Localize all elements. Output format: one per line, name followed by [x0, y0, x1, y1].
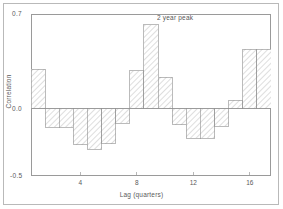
x-tick-label: 12: [190, 179, 197, 186]
bar: [102, 109, 116, 144]
bar: [45, 109, 59, 128]
bar: [144, 25, 158, 109]
y-axis-title: Correlation: [5, 62, 12, 122]
bar: [116, 109, 130, 124]
bar: [215, 109, 229, 127]
bar: [130, 71, 144, 109]
bar: [186, 109, 200, 139]
bar: [257, 49, 271, 108]
x-axis-title: Lag (quarters): [0, 191, 283, 198]
bar: [73, 109, 87, 145]
bar: [158, 77, 172, 108]
bar: [87, 109, 101, 150]
correlogram-plot: [31, 14, 271, 176]
x-tick-label: 4: [79, 179, 83, 186]
x-tick-label: 16: [246, 179, 253, 186]
x-axis-ticks: [80, 172, 249, 176]
bar: [243, 49, 257, 108]
peak-annotation: 2 year peak: [157, 14, 193, 21]
bar: [200, 109, 214, 139]
y-tick-label-bottom: -0.5: [10, 172, 22, 179]
y-tick-label-top: 0.7: [12, 10, 22, 17]
bar: [229, 100, 243, 108]
bar: [59, 109, 73, 128]
bar: [172, 109, 186, 125]
bars-group: [31, 25, 271, 149]
bar: [31, 69, 45, 108]
y-tick-label-zero: 0.0: [12, 105, 22, 112]
x-tick-label: 8: [135, 179, 139, 186]
chart-screenshot: 0.7 0.0 -0.5 481216 Lag (quarters) Corre…: [0, 0, 283, 209]
